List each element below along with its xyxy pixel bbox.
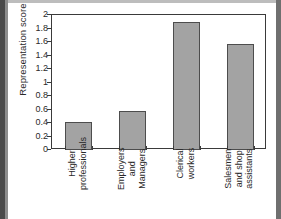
x-axis-category-label-text: Higher professionals: [67, 137, 88, 190]
plot-area: [51, 14, 266, 149]
x-axis-category-label-text: Salesmen and shop assistants: [223, 149, 255, 189]
x-axis-category-label-text: Clerical workers: [175, 148, 196, 180]
y-tick-label: 0.8: [22, 90, 48, 100]
y-tick-label: 0.6: [22, 104, 48, 114]
bar: [119, 111, 146, 150]
bar: [227, 44, 254, 150]
y-tick-label: 0.2: [22, 131, 48, 141]
y-tick-label: 1.4: [22, 50, 48, 60]
scan-edge-left-secondary: [5, 0, 8, 219]
scan-edge-top: [0, 0, 281, 3]
y-tick-label: 2: [22, 9, 48, 19]
y-tick-mark: [47, 149, 51, 150]
x-tick-mark: [200, 146, 201, 150]
bar: [173, 22, 200, 150]
y-tick-label: 1.2: [22, 63, 48, 73]
y-tick-label: 0: [22, 144, 48, 154]
y-tick-label: 1.8: [22, 23, 48, 33]
x-axis-category-label: Salesmen and shop assistants: [207, 153, 271, 185]
x-tick-mark: [173, 146, 174, 150]
y-tick-label: 1: [22, 77, 48, 87]
x-axis-category-label-text: Employers and Managers: [116, 147, 148, 190]
chart-page: Representation score 00.20.40.60.811.21.…: [0, 0, 281, 219]
scan-edge-right: [276, 0, 281, 219]
y-tick-label: 0.4: [22, 117, 48, 127]
y-tick-label: 1.6: [22, 36, 48, 46]
x-tick-mark: [92, 146, 93, 150]
